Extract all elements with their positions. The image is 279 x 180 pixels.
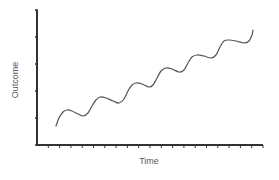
line-chart	[0, 0, 279, 180]
y-axis-label: Outcome	[10, 62, 20, 99]
outcome-line	[56, 30, 253, 126]
chart-axes	[36, 10, 263, 145]
x-axis-label: Time	[139, 156, 159, 166]
axis-ticks	[35, 10, 263, 148]
